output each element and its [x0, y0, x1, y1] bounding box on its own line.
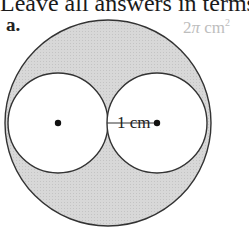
center-dot-right [154, 120, 160, 126]
answer-text: 2π cm2 [183, 17, 230, 38]
part-label: a. [6, 14, 20, 36]
center-dot-left [55, 120, 61, 126]
answer-coefficient: 2 [183, 18, 192, 37]
answer-exponent: 2 [225, 17, 230, 28]
answer-unit: cm [204, 18, 225, 37]
pi-symbol: π [192, 18, 201, 37]
radius-label: 1 cm [117, 113, 151, 133]
